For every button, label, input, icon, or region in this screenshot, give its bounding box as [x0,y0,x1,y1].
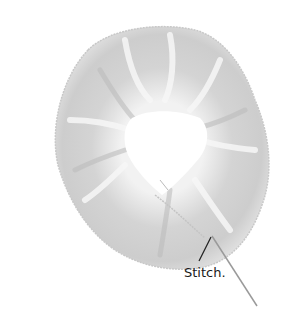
stitch-label: Stitch. [184,265,226,280]
rosette-illustration [0,0,304,328]
